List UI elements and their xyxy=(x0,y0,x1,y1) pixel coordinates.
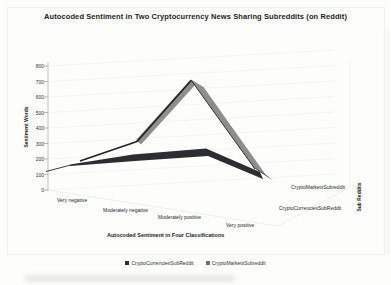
legend-label: CryptoCurrenciesSubReddit xyxy=(131,260,193,266)
scanned-chart-page: Autocoded Sentiment in Two Cryptocurrenc… xyxy=(0,0,391,285)
legend-swatch-cryptomarkets xyxy=(206,261,210,265)
legend-label: CryptoMarketsSubreddit xyxy=(212,260,266,266)
depth-label-cryptocurrencies: CryptoCurrenciesSubReddit xyxy=(279,205,341,211)
ribbon-plot xyxy=(0,0,391,285)
category-label-very-negative: Very negative xyxy=(57,197,87,203)
category-label-very-positive: Very positive xyxy=(226,222,254,228)
series-cryptomarkets-rising-band xyxy=(136,80,196,145)
series-cryptocurrencies-ribbon xyxy=(70,149,263,180)
legend-item-cryptocurrencies: CryptoCurrenciesSubReddit xyxy=(125,260,193,266)
legend-swatch-cryptocurrencies xyxy=(125,261,129,265)
scan-smudge xyxy=(25,276,235,281)
wall-gridlines xyxy=(48,50,335,190)
category-label-moderately-negative: Moderately negative xyxy=(103,207,148,213)
legend: CryptoCurrenciesSubReddit CryptoMarketsS… xyxy=(0,260,391,266)
legend-item-cryptomarkets: CryptoMarketsSubreddit xyxy=(206,260,266,266)
scan-edge-shadow xyxy=(387,30,390,255)
depth-label-cryptomarkets: CryptoMarketsSubreddit xyxy=(291,184,345,190)
category-axis-title: Autocoded Sentiment in Four Classificati… xyxy=(107,232,224,238)
series-cryptocurrencies-lead-in xyxy=(46,165,70,171)
depth-axis-title: Sub Reddits xyxy=(356,167,362,227)
category-label-moderately-positive: Moderately positive xyxy=(158,214,201,220)
